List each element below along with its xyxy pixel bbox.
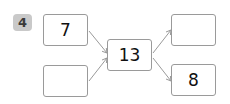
output-box-top[interactable] (171, 14, 216, 46)
arrow-icon (153, 58, 171, 81)
input-box-bottom[interactable] (43, 65, 88, 97)
input-box-top[interactable]: 7 (43, 14, 88, 46)
center-box[interactable]: 13 (107, 39, 152, 71)
arrow-icon (89, 58, 107, 81)
output-box-bottom[interactable]: 8 (171, 64, 216, 96)
arrow-icon (153, 30, 171, 53)
arrow-icon (89, 31, 107, 53)
